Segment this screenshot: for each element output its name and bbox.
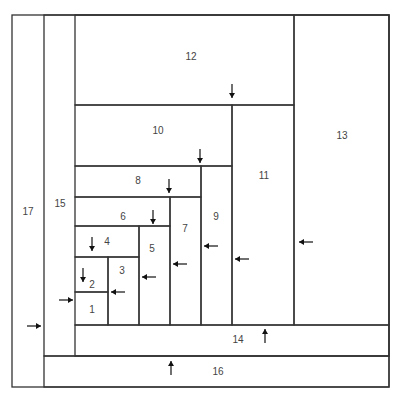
label-1: 1 (89, 304, 95, 315)
label-14: 14 (232, 334, 244, 345)
arrow-head-14 (262, 329, 268, 334)
arrow-head-11 (235, 256, 240, 262)
region-7 (170, 197, 201, 325)
arrow-head-8 (166, 188, 172, 193)
arrow-head-3 (111, 289, 116, 295)
arrow-head-17 (36, 323, 41, 329)
label-9: 9 (213, 211, 219, 222)
label-3: 3 (119, 265, 125, 276)
arrow-head-7 (173, 261, 178, 267)
label-7: 7 (182, 223, 188, 234)
label-6: 6 (120, 211, 126, 222)
label-16: 16 (212, 366, 224, 377)
region-5 (139, 226, 170, 325)
region-15 (44, 15, 389, 356)
arrow-head-10 (197, 158, 203, 163)
region-11 (232, 105, 294, 325)
arrow-head-4 (89, 246, 95, 251)
label-4: 4 (104, 236, 110, 247)
label-2: 2 (89, 279, 95, 290)
arrow-head-2 (80, 277, 86, 282)
spiral-diagram: 1 2 3 4 5 6 7 8 9 10 11 12 13 14 15 17 1… (0, 0, 399, 397)
arrow-head-9 (204, 243, 209, 249)
label-16-17: 17 (22, 206, 34, 217)
label-5: 5 (149, 243, 155, 254)
label-13: 13 (336, 130, 348, 141)
arrow-head-15 (68, 297, 73, 303)
label-15: 15 (54, 198, 66, 209)
label-8: 8 (135, 175, 141, 186)
arrow-head-13 (299, 239, 304, 245)
region-13 (294, 15, 389, 325)
arrow-head-12 (229, 93, 235, 98)
arrow-head-6 (150, 219, 156, 224)
label-10: 10 (152, 125, 164, 136)
arrow-head-16 (168, 361, 174, 366)
label-11: 11 (259, 170, 270, 181)
arrow-head-5 (142, 274, 147, 280)
label-12: 12 (185, 51, 197, 62)
